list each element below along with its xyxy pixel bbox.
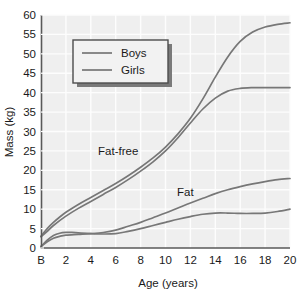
annotation-label: Fat: [177, 186, 194, 198]
legend-label-boys: Boys: [121, 47, 147, 59]
x-tick-label: B: [37, 254, 45, 266]
x-tick-label: 12: [184, 254, 197, 266]
legend-label-girls: Girls: [121, 64, 145, 76]
y-tick-label: 5: [30, 223, 36, 235]
y-tick-label: 45: [23, 67, 36, 79]
y-tick-label: 50: [23, 48, 36, 60]
x-tick-label: 10: [159, 254, 172, 266]
y-tick-label: 10: [23, 203, 36, 215]
y-tick-label: 55: [23, 28, 36, 40]
y-tick-label: 40: [23, 87, 36, 99]
x-tick-label: 4: [88, 254, 95, 266]
x-tick-label: 6: [112, 254, 118, 266]
y-tick-label: 20: [23, 164, 36, 176]
chart-legend[interactable]: Boys Girls: [73, 40, 172, 87]
x-tick-label: 20: [284, 254, 297, 266]
x-tick-label: 14: [209, 254, 222, 266]
y-tick-label: 35: [23, 106, 36, 118]
y-tick-label: 25: [23, 145, 36, 157]
x-axis-title: Age (years): [138, 277, 198, 289]
x-tick-label: 18: [259, 254, 272, 266]
growth-curve-chart: 051015202530354045505560 B24681012141618…: [0, 0, 305, 294]
y-tick-label: 30: [23, 126, 36, 138]
x-tick-label: 16: [234, 254, 247, 266]
y-tick-label: 60: [23, 9, 36, 21]
chart-figure: 051015202530354045505560 B24681012141618…: [0, 0, 305, 294]
y-tick-label: 0: [30, 242, 36, 254]
x-tick-label: 8: [137, 254, 143, 266]
x-tick-label: 2: [63, 254, 69, 266]
y-tick-label: 15: [23, 184, 36, 196]
y-axis-title: Mass (kg): [3, 107, 15, 158]
annotation-label: Fat-free: [98, 145, 138, 157]
